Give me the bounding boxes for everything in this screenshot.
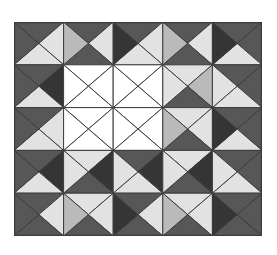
- tile-cell: [113, 150, 163, 193]
- tile-cell: [113, 193, 163, 236]
- tile-cell: [14, 65, 64, 108]
- tile-cell: [64, 150, 114, 193]
- tile-cell: [64, 108, 114, 151]
- tile-cell: [212, 150, 262, 193]
- tile-cell: [163, 65, 213, 108]
- tile-cell: [14, 150, 64, 193]
- tile-cell: [212, 108, 262, 151]
- tile-cell: [64, 22, 114, 65]
- tile-cell: [14, 108, 64, 151]
- tile-cell: [14, 22, 64, 65]
- tile-cell: [64, 193, 114, 236]
- triangle-tile-grid: [14, 22, 262, 236]
- tile-cell: [212, 22, 262, 65]
- tile-cell: [212, 193, 262, 236]
- tile-cell: [64, 65, 114, 108]
- tile-cell: [113, 65, 163, 108]
- tile-cell: [14, 193, 64, 236]
- tile-cell: [163, 150, 213, 193]
- tile-cell: [163, 22, 213, 65]
- tile-cell: [163, 193, 213, 236]
- tile-cell: [163, 108, 213, 151]
- tile-cell: [212, 65, 262, 108]
- tile-cell: [113, 108, 163, 151]
- tile-cell: [113, 22, 163, 65]
- quilt-pattern-figure: [14, 22, 262, 236]
